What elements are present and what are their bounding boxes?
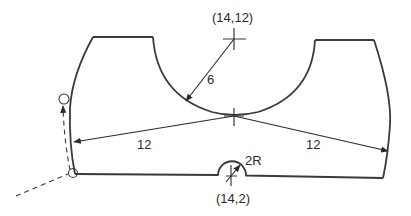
left-convex-side — [70, 37, 93, 174]
tool-circle-end — [59, 94, 69, 104]
upper-center-cross — [223, 28, 246, 50]
radius-2-dimension — [226, 165, 240, 182]
right-convex-side — [374, 40, 390, 178]
tool-lead-path — [63, 106, 70, 170]
radius-6-label: 6 — [207, 72, 214, 87]
tool-approach-path — [16, 174, 68, 196]
lower-center-label: (14,2) — [216, 191, 250, 206]
radius-12-left-label: 12 — [137, 137, 151, 152]
radius-6-dimension — [186, 39, 234, 101]
part-drawing — [0, 0, 411, 216]
tool-circle-start — [69, 169, 78, 178]
radius-12-left-dimension — [74, 116, 234, 142]
notch-radius-label: 2R — [245, 153, 262, 168]
radius-12-right-label: 12 — [306, 137, 320, 152]
upper-center-label: (14,12) — [212, 10, 253, 25]
